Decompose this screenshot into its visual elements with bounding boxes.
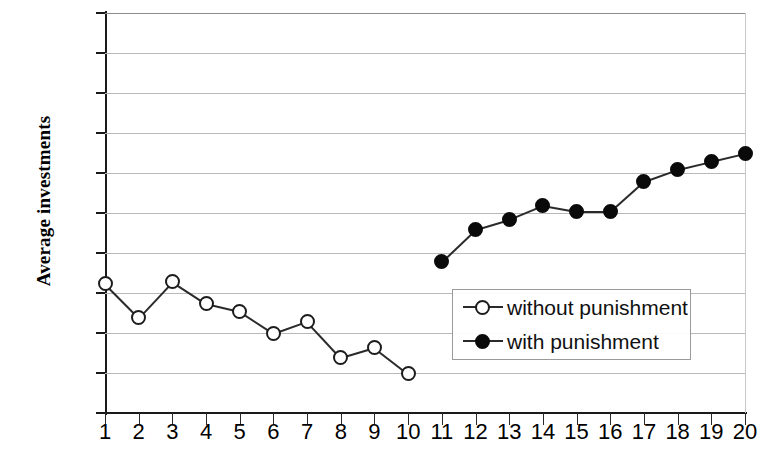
y-axis-tick (96, 412, 105, 414)
x-axis-tick-label: 20 (725, 421, 762, 443)
data-point-marker (704, 154, 719, 169)
data-point-marker (670, 162, 685, 177)
y-axis-tick (96, 52, 105, 54)
y-axis-tick (96, 132, 105, 134)
data-point-marker (502, 212, 517, 227)
y-axis-tick (96, 372, 105, 374)
legend-item-without-punishment: without punishment (453, 290, 690, 324)
y-axis-tick (96, 172, 105, 174)
legend-label-without-punishment: without punishment (503, 297, 688, 318)
data-point-marker (636, 174, 651, 189)
investment-chart-figure: Average investments 02468101214161820 12… (0, 0, 762, 462)
plot-frame-right (745, 13, 746, 413)
data-point-marker (603, 204, 618, 219)
filled-circle-marker-icon (463, 333, 503, 349)
open-circle-marker-icon (463, 299, 503, 315)
y-axis-tick (96, 12, 105, 14)
data-point-marker (434, 254, 449, 269)
y-axis-title: Average investments (33, 61, 55, 341)
y-axis-tick (96, 212, 105, 214)
data-point-marker (468, 222, 483, 237)
y-axis-tick (96, 92, 105, 94)
legend-label-with-punishment: with punishment (503, 331, 659, 352)
data-point-marker (535, 198, 550, 213)
y-axis-tick (96, 252, 105, 254)
data-point-marker (738, 146, 753, 161)
data-point-marker (569, 204, 584, 219)
chart-legend: without punishment with punishment (452, 289, 691, 360)
y-axis-tick (96, 292, 105, 294)
y-axis-tick (96, 332, 105, 334)
legend-item-with-punishment: with punishment (453, 324, 690, 358)
